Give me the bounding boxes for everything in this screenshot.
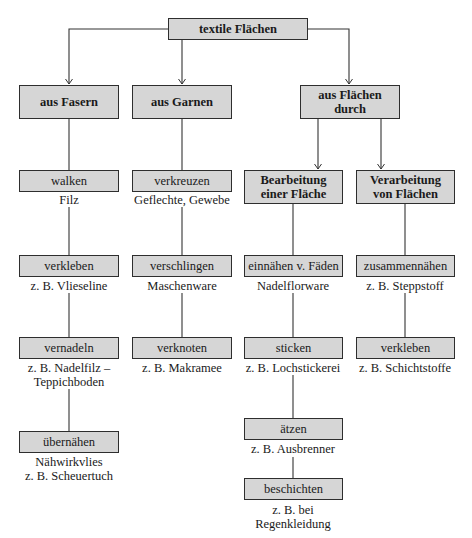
- example-line: Nadelflorware: [257, 279, 329, 293]
- process-vernadeln: vernadeln: [19, 337, 119, 359]
- example-line: Nähwirkvlies: [25, 455, 113, 469]
- category-aus-garnen: aus Garnen: [132, 85, 232, 119]
- example-line: z. B. Nadelfilz –: [28, 361, 110, 375]
- root-label: textile Flächen: [199, 22, 277, 36]
- process-label: einnähen v. Fäden: [248, 259, 338, 273]
- subcategory-label-line2: einer Fläche: [261, 187, 326, 201]
- process-label: verkleben: [44, 259, 93, 273]
- process-verknoten: verknoten: [132, 337, 232, 359]
- example-line: z. B. Scheuertuch: [25, 469, 113, 483]
- subcategory-label-line2: von Flächen: [373, 187, 438, 201]
- example-line: z. B. Steppstoff: [366, 279, 444, 293]
- example-filz: Filz: [59, 193, 78, 207]
- process-label: vernadeln: [44, 341, 93, 355]
- example-ausbrenner: z. B. Ausbrenner: [251, 442, 335, 456]
- example-line: z. B. Lochstickerei: [246, 361, 340, 375]
- example-steppstoff: z. B. Steppstoff: [366, 279, 444, 293]
- process-uebernaehen: übernähen: [19, 431, 119, 453]
- example-vlieseline: z. B. Vlieseline: [31, 279, 108, 293]
- process-verkreuzen: verkreuzen: [132, 170, 232, 192]
- process-verkleben-fasern: verkleben: [19, 255, 119, 277]
- arrow-root-to-fasern: [69, 29, 168, 84]
- process-label: übernähen: [43, 435, 95, 449]
- process-label: beschichten: [264, 482, 323, 496]
- process-label: ätzen: [280, 422, 306, 436]
- example-line: z. B. Ausbrenner: [251, 442, 335, 456]
- process-verkleben-flaechen: verkleben: [356, 337, 455, 359]
- process-label: verkleben: [381, 341, 430, 355]
- process-label: verkreuzen: [154, 174, 210, 188]
- category-label-line1: aus Flächen: [318, 88, 382, 102]
- arrow-root-to-flaechen: [307, 29, 349, 84]
- process-beschichten: beschichten: [244, 478, 343, 500]
- process-label: verknoten: [157, 341, 207, 355]
- example-naehwirkvlies: Nähwirkvlies z. B. Scheuertuch: [25, 455, 113, 483]
- example-line: Teppichboden: [28, 375, 110, 389]
- process-label: verschlingen: [150, 259, 214, 273]
- process-label: sticken: [276, 341, 311, 355]
- subcategory-verarbeitung: Verarbeitung von Flächen: [356, 170, 455, 204]
- subcategory-bearbeitung: Bearbeitung einer Fläche: [244, 170, 343, 204]
- category-aus-flaechen-durch: aus Flächen durch: [300, 85, 400, 119]
- subcategory-label-line1: Verarbeitung: [370, 173, 441, 187]
- example-line: z. B. Schichtstoffe: [359, 361, 451, 375]
- example-maschenware: Maschenware: [147, 279, 216, 293]
- root-node-textile-flaechen: textile Flächen: [168, 18, 308, 40]
- process-sticken: sticken: [244, 337, 343, 359]
- example-nadelfilz: z. B. Nadelfilz – Teppichboden: [28, 361, 110, 389]
- example-schichtstoffe: z. B. Schichtstoffe: [359, 361, 451, 375]
- example-makramee: z. B. Makramee: [142, 361, 222, 375]
- category-label: aus Garnen: [151, 95, 213, 109]
- example-line: Maschenware: [147, 279, 216, 293]
- process-aetzen: ätzen: [244, 418, 343, 440]
- example-line: z. B. bei: [255, 503, 331, 517]
- process-verschlingen: verschlingen: [132, 255, 232, 277]
- category-label-line2: durch: [334, 102, 366, 116]
- category-aus-fasern: aus Fasern: [19, 85, 119, 119]
- example-geflechte-gewebe: Geflechte, Gewebe: [134, 193, 230, 207]
- subcategory-label-line1: Bearbeitung: [261, 173, 327, 187]
- example-line: z. B. Makramee: [142, 361, 222, 375]
- example-line: Regenkleidung: [255, 517, 331, 531]
- process-label: walken: [51, 174, 87, 188]
- process-walken: walken: [19, 170, 119, 192]
- category-label: aus Fasern: [40, 95, 98, 109]
- example-regenkleidung: z. B. bei Regenkleidung: [255, 503, 331, 531]
- example-line: Geflechte, Gewebe: [134, 193, 230, 207]
- process-label: zusammennähen: [364, 259, 447, 273]
- example-nadelflorware: Nadelflorware: [257, 279, 329, 293]
- example-line: Filz: [59, 193, 78, 207]
- process-zusammennaehen: zusammennähen: [356, 255, 455, 277]
- process-einnaehen-faeden: einnähen v. Fäden: [244, 255, 343, 277]
- example-line: z. B. Vlieseline: [31, 279, 108, 293]
- example-lochstickerei: z. B. Lochstickerei: [246, 361, 340, 375]
